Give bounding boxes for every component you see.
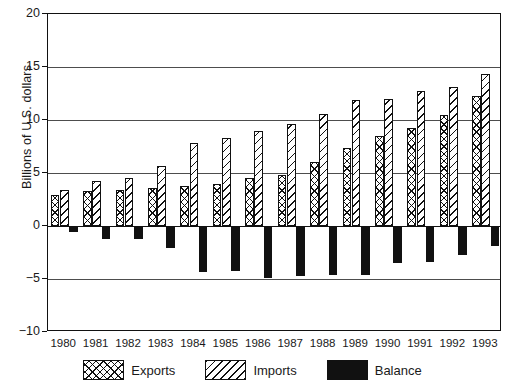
bar-imports — [449, 87, 458, 226]
plot-area — [47, 13, 501, 331]
y-axis-label: Billions of U.S. dollars — [20, 37, 34, 217]
legend-label: Imports — [253, 364, 296, 377]
bar-balance — [231, 226, 240, 271]
legend-item-balance: Balance — [327, 360, 422, 380]
bar-balance — [102, 226, 111, 239]
bar-exports — [148, 188, 157, 226]
bar-exports — [310, 162, 319, 226]
y-tick-label: 0 — [0, 219, 40, 232]
chart-legend: ExportsImportsBalance — [0, 360, 505, 380]
bar-series-layer — [48, 14, 500, 330]
bar-balance — [458, 226, 467, 255]
bar-imports — [384, 99, 393, 226]
diagonal-hatch-swatch — [205, 360, 246, 380]
bar-balance — [491, 226, 500, 246]
bar-exports — [407, 128, 416, 226]
y-tick-label: −5 — [0, 272, 40, 285]
legend-label: Exports — [131, 364, 175, 377]
bar-exports — [116, 190, 125, 226]
bar-imports — [481, 74, 490, 226]
cross-hatch-swatch — [83, 360, 124, 380]
bar-exports — [180, 186, 189, 226]
bar-exports — [440, 115, 449, 226]
bar-imports — [92, 181, 101, 226]
bar-imports — [417, 91, 426, 226]
bar-imports — [157, 166, 166, 226]
bar-exports — [245, 178, 254, 226]
bar-balance — [361, 226, 370, 275]
bar-balance — [296, 226, 305, 276]
bar-imports — [319, 114, 328, 226]
bar-exports — [472, 96, 481, 226]
bar-balance — [134, 226, 143, 239]
bar-imports — [125, 178, 134, 226]
bar-imports — [352, 100, 361, 226]
bar-balance — [199, 226, 208, 272]
bar-exports — [213, 184, 222, 226]
legend-label: Balance — [375, 364, 422, 377]
solid-black-swatch — [327, 360, 368, 380]
x-tick-label: 1993 — [465, 338, 505, 350]
bar-balance — [426, 226, 435, 262]
bar-exports — [83, 191, 92, 226]
bar-imports — [60, 190, 69, 226]
y-tick-label: 20 — [0, 7, 40, 20]
bar-exports — [51, 195, 60, 226]
legend-item-imports: Imports — [205, 360, 296, 380]
bar-imports — [190, 143, 199, 226]
bar-chart: Billions of U.S. dollars 20151050−5−10 1… — [0, 0, 505, 391]
legend-item-exports: Exports — [83, 360, 175, 380]
bar-balance — [329, 226, 338, 275]
bar-balance — [166, 226, 175, 248]
bar-exports — [278, 175, 287, 226]
bar-balance — [264, 226, 273, 278]
bar-imports — [222, 138, 231, 226]
bar-imports — [254, 131, 263, 226]
bar-balance — [69, 226, 78, 232]
bar-exports — [343, 148, 352, 226]
y-tick-mark — [42, 331, 47, 332]
y-tick-label: −10 — [0, 325, 40, 338]
bar-exports — [375, 136, 384, 226]
bar-imports — [287, 124, 296, 226]
bar-balance — [393, 226, 402, 263]
